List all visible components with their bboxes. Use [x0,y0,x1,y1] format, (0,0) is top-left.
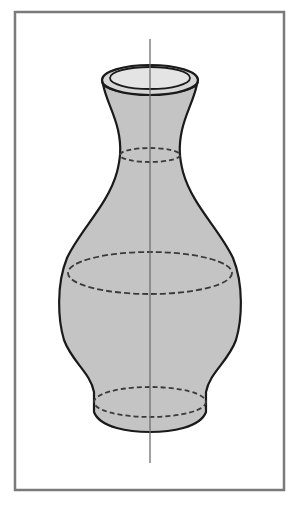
vase-svg [0,0,297,509]
vase-diagram: Vase solid of revolution [0,0,297,509]
